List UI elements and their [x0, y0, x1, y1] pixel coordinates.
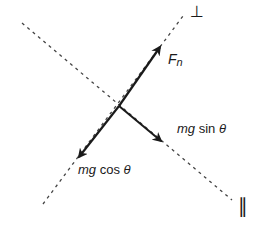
free-body-diagram: ⊥ Fn mg sin θ mg cos θ ∥: [0, 0, 260, 229]
mg-sin-var: mg: [177, 121, 195, 136]
mg-cos-angle: θ: [124, 162, 131, 177]
mg-cos-label: mg cos θ: [78, 163, 131, 176]
normal-force-arrow: [119, 47, 160, 106]
mg-cos-fn: cos: [100, 162, 120, 177]
parallel-axis-label: ∥: [238, 196, 248, 216]
mg-cos-var: mg: [78, 162, 96, 177]
normal-force-label: Fn: [168, 52, 183, 68]
mg-cos-arrow: [79, 106, 119, 157]
mg-sin-angle: θ: [219, 121, 226, 136]
diagram-graphics: [0, 0, 260, 229]
perpendicular-axis-label: ⊥: [190, 4, 204, 20]
mg-sin-arrow: [119, 106, 161, 141]
mg-sin-label: mg sin θ: [177, 122, 226, 135]
normal-force-subscript: n: [177, 56, 183, 68]
mg-sin-fn: sin: [199, 121, 216, 136]
normal-force-symbol: F: [168, 51, 177, 67]
